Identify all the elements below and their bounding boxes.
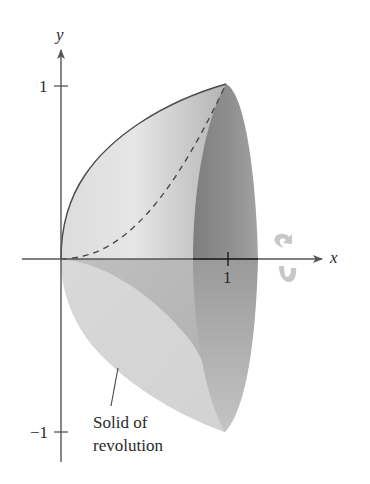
x-axis-label: x — [329, 248, 338, 267]
rotate-about-x-axis-icon — [274, 234, 296, 282]
annotation-line-2: revolution — [93, 436, 163, 455]
y-axis-label: y — [54, 25, 64, 44]
annotation-line-1: Solid of — [93, 413, 148, 432]
annotation-leader-line — [111, 368, 118, 406]
solid-of-revolution-diagram: y x 1 −1 1 Solid of revolution — [0, 0, 370, 484]
y-tick-label-1: 1 — [39, 77, 48, 96]
x-tick-label-1: 1 — [223, 268, 232, 287]
y-tick-label-neg1: −1 — [30, 423, 48, 442]
